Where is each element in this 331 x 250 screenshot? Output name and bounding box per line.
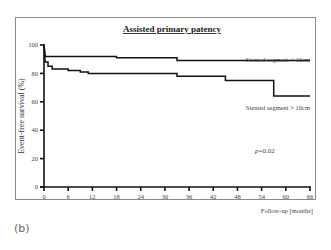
x-tick-label: 60 — [283, 193, 290, 200]
y-tick-label: 0 — [35, 183, 38, 190]
x-tick-label: 42 — [210, 193, 217, 200]
legend-label-long-segment: Stented segment > 10cm — [246, 104, 310, 111]
y-axis-label: Event-free survival (%) — [17, 78, 26, 154]
y-tick-label: 80 — [32, 70, 39, 77]
y-tick-label: 20 — [32, 155, 39, 162]
x-tick-label: 54 — [258, 193, 265, 200]
x-tick-label: 30 — [162, 193, 169, 200]
x-tick-label: 24 — [137, 193, 144, 200]
series-group — [44, 45, 310, 96]
panel-label: (b) — [14, 222, 30, 235]
x-tick-label: 48 — [234, 193, 241, 200]
x-tick-label: 18 — [113, 193, 120, 200]
y-tick-label: 60 — [32, 98, 39, 105]
x-axis-label: Follow-up [months] — [261, 207, 313, 215]
x-tick-label: 0 — [42, 193, 45, 200]
x-tick-label: 66 — [307, 193, 314, 200]
y-axis: 020406080100 — [28, 41, 44, 190]
y-tick-label: 100 — [28, 41, 38, 48]
x-tick-label: 36 — [186, 193, 193, 200]
x-tick-label: 6 — [67, 193, 71, 200]
chart-title: Assisted primary patency — [123, 24, 221, 34]
y-tick-label: 40 — [32, 126, 39, 133]
p-value-annotation: p=0.02 — [254, 147, 275, 155]
x-axis: 0612182430364248546066 — [40, 187, 314, 200]
x-tick-label: 12 — [89, 193, 96, 200]
survival-curve-1 — [44, 45, 310, 96]
legend-label-short-segment: Stented segment < 10cm — [246, 56, 310, 63]
km-chart: Assisted primary patency 020406080100 06… — [0, 0, 331, 250]
